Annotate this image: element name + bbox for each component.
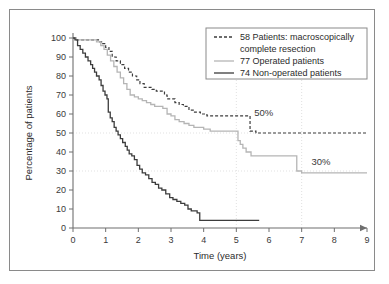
y-axis-title: Percentage of patients — [23, 85, 34, 180]
legend-label-2: 74 Non-operated patients — [240, 68, 342, 78]
y-tick-label-70: 70 — [56, 90, 66, 100]
y-tick-label-80: 80 — [56, 71, 66, 81]
annotation-30-percent: 30% — [311, 156, 331, 167]
survival-chart: 01020304050607080901000123456789Time (ye… — [10, 10, 376, 272]
x-tick-label-4: 4 — [201, 235, 206, 245]
x-tick-label-0: 0 — [70, 235, 75, 245]
y-tick-label-60: 60 — [56, 109, 66, 119]
y-tick-label-40: 40 — [56, 147, 66, 157]
x-tick-label-6: 6 — [266, 235, 271, 245]
legend-layer: 58 Patients: macroscopicallycomplete res… — [206, 28, 367, 79]
legend-label-0-line2: complete resection — [240, 44, 316, 54]
figure-frame: 01020304050607080901000123456789Time (ye… — [9, 9, 375, 271]
legend-label-0: 58 Patients: macroscopically — [240, 32, 355, 42]
x-tick-label-7: 7 — [299, 235, 304, 245]
y-tick-label-100: 100 — [51, 33, 66, 43]
y-tick-label-90: 90 — [56, 52, 66, 62]
legend-label-1: 77 Operated patients — [240, 56, 325, 66]
x-axis-arrowhead — [360, 225, 367, 231]
annotations-layer: 50%30% — [254, 107, 331, 167]
annotation-50-percent: 50% — [254, 107, 274, 118]
x-tick-label-3: 3 — [168, 235, 173, 245]
x-tick-label-5: 5 — [234, 235, 239, 245]
x-axis-title: Time (years) — [194, 250, 247, 261]
x-tick-label-9: 9 — [364, 235, 369, 245]
y-tick-label-10: 10 — [56, 204, 66, 214]
x-tick-label-2: 2 — [136, 235, 141, 245]
y-tick-label-20: 20 — [56, 185, 66, 195]
y-tick-label-0: 0 — [61, 223, 66, 233]
x-tick-label-1: 1 — [103, 235, 108, 245]
y-tick-label-50: 50 — [56, 128, 66, 138]
x-tick-label-8: 8 — [332, 235, 337, 245]
y-tick-label-30: 30 — [56, 166, 66, 176]
